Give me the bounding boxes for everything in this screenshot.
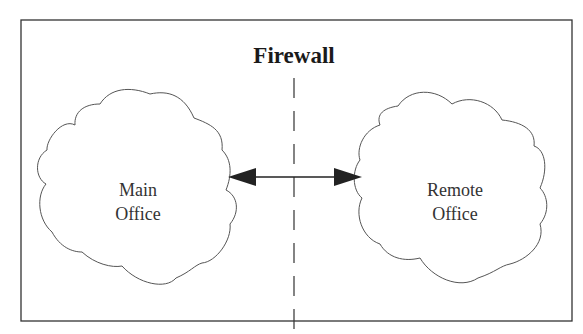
- main-office-label-line2: Office: [115, 204, 161, 224]
- remote-office-label-line2: Office: [432, 204, 478, 224]
- firewall-title: Firewall: [253, 43, 334, 68]
- bidirectional-arrow: [228, 168, 362, 186]
- arrowhead-right-icon: [334, 168, 362, 186]
- firewall-diagram: Firewall Main Office Remote Office: [0, 0, 583, 334]
- remote-office-label-line1: Remote: [427, 180, 483, 200]
- arrowhead-left-icon: [228, 168, 256, 186]
- main-office-label-line1: Main: [119, 180, 157, 200]
